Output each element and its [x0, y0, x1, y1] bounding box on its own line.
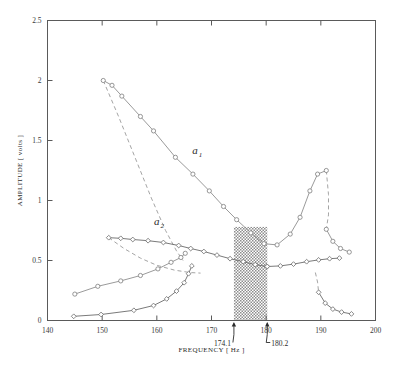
data-point-marker	[347, 250, 351, 254]
y-tick-label: 2	[38, 76, 42, 85]
curve-label-a1: a1	[192, 144, 202, 159]
curve-label-base: a	[192, 144, 198, 156]
annotation-label: 174.1	[214, 339, 231, 348]
data-point-marker	[119, 279, 123, 283]
data-point-marker	[349, 312, 354, 317]
data-point-marker	[118, 236, 123, 241]
data-point-marker	[130, 237, 135, 242]
curve-label-subscript: 2	[161, 222, 165, 230]
hysteresis-band-rect	[234, 227, 267, 321]
data-point-marker	[278, 264, 283, 269]
data-point-marker	[288, 232, 292, 236]
leader-line	[233, 335, 234, 343]
data-point-marker	[73, 292, 77, 296]
x-tick-label: 190	[315, 326, 327, 335]
data-point-marker	[275, 243, 279, 247]
data-point-marker	[221, 204, 225, 208]
data-point-marker	[173, 155, 177, 159]
annotation-label: 180.2	[271, 339, 288, 348]
data-point-marker	[120, 94, 124, 98]
curve-label-subscript: 1	[199, 151, 203, 159]
data-point-marker	[249, 231, 253, 235]
curve-a2-descending-dashed-branch	[109, 238, 201, 273]
data-point-marker	[291, 262, 296, 267]
data-point-marker	[316, 290, 321, 295]
data-point-marker	[228, 256, 233, 261]
data-point-marker	[308, 189, 312, 193]
data-point-marker	[138, 273, 142, 277]
data-point-marker	[176, 243, 181, 248]
data-point-marker	[298, 215, 302, 219]
leader-line	[266, 335, 267, 343]
data-point-marker	[324, 168, 328, 172]
data-point-marker	[191, 172, 195, 176]
data-point-marker	[338, 246, 342, 250]
data-point-marker	[179, 255, 183, 259]
curve-lower-right-connector-dashed	[315, 273, 318, 293]
data-point-marker	[337, 256, 342, 261]
data-point-marker	[262, 242, 266, 246]
data-point-marker	[151, 303, 156, 308]
y-tick-label: 0	[38, 316, 42, 325]
data-point-marker	[324, 227, 328, 231]
data-point-marker	[201, 249, 206, 254]
data-point-marker	[315, 172, 319, 176]
data-point-marker	[339, 310, 344, 315]
data-point-marker	[207, 189, 211, 193]
x-axis-title: FREQUENCY [ Hz ]	[178, 346, 244, 354]
data-point-marker	[138, 114, 142, 118]
curve-label-a2: a2	[154, 215, 165, 230]
data-point-marker	[189, 264, 194, 269]
curve-a1-upper-solid-branch	[103, 81, 326, 245]
y-tick-label: 0.5	[32, 256, 42, 265]
y-tick-label: 1	[38, 196, 42, 205]
y-tick-label: 2.5	[32, 16, 42, 25]
arrow-head	[232, 322, 236, 327]
data-point-marker	[101, 78, 105, 82]
data-point-marker	[188, 246, 193, 251]
amplitude-frequency-plot: 14015016017018019020000.511.522.5FREQUEN…	[0, 0, 397, 376]
data-point-marker	[96, 284, 100, 288]
x-tick-label: 140	[42, 326, 54, 335]
x-tick-label: 200	[370, 326, 382, 335]
data-point-marker	[99, 312, 104, 317]
data-point-marker	[71, 314, 76, 319]
data-point-marker	[169, 260, 173, 264]
hysteresis-band	[234, 227, 267, 321]
x-tick-label: 150	[97, 326, 109, 335]
data-point-marker	[151, 129, 155, 133]
data-point-marker	[183, 251, 187, 255]
curve-a1-unstable-dashed-branch	[103, 81, 183, 261]
chart-annotations: a1a2174.1180.2	[154, 144, 288, 348]
data-point-marker	[215, 253, 220, 258]
curve-a1-right-tail-solid	[326, 229, 349, 252]
figure-container: 14015016017018019020000.511.522.5FREQUEN…	[0, 0, 397, 376]
x-tick-label: 180	[261, 326, 273, 335]
data-point-marker	[304, 259, 309, 264]
data-point-marker	[156, 267, 160, 271]
data-point-marker	[316, 258, 321, 263]
curve-a1-right-descending-dashed-branch	[326, 171, 328, 230]
annotation-174.1: 174.1	[214, 322, 236, 348]
x-tick-label: 160	[151, 326, 163, 335]
arrow-head	[265, 322, 269, 327]
x-tick-label: 170	[206, 326, 218, 335]
data-point-marker	[110, 83, 114, 87]
curve-lower-left-rising-solid-branch	[75, 253, 185, 294]
data-point-marker	[131, 308, 136, 313]
data-point-marker	[161, 240, 166, 245]
data-point-marker	[146, 238, 151, 243]
annotation-180.2: 180.2	[265, 322, 288, 348]
y-tick-label: 1.5	[32, 136, 42, 145]
data-point-marker	[235, 218, 239, 222]
data-point-marker	[331, 239, 335, 243]
data-point-marker	[327, 256, 332, 261]
y-axis-title: AMPLITUDE [ volts ]	[16, 135, 24, 207]
curve-label-base: a	[154, 215, 160, 227]
data-curves	[74, 81, 352, 317]
